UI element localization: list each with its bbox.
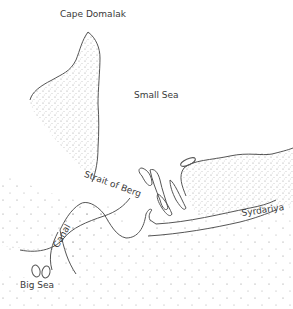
label-cape-domalak: Cape Domalak: [60, 10, 126, 19]
big-sea-islets: [31, 264, 51, 278]
label-big-sea: Big Sea: [20, 281, 54, 290]
map-illustration: [0, 0, 293, 309]
label-small-sea: Small Sea: [134, 91, 179, 100]
cape-landmass: [30, 32, 100, 182]
